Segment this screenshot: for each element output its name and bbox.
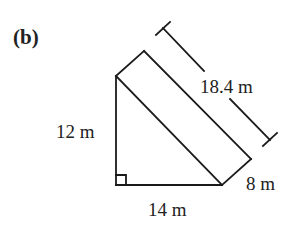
part-label: (b) <box>13 25 39 49</box>
width-label: 8 m <box>246 173 275 194</box>
prism-diagram: (b) 18.4 m 12 m 14 m 8 m <box>0 0 299 225</box>
length-label: 18.4 m <box>200 76 253 97</box>
length-dimension-line-lower <box>230 99 270 140</box>
right-angle-marker <box>116 175 126 185</box>
length-dimension-line-upper <box>163 28 204 71</box>
base-label: 14 m <box>148 199 187 220</box>
height-label: 12 m <box>56 121 95 142</box>
diagram-canvas: (b) 18.4 m 12 m 14 m 8 m <box>0 0 299 225</box>
rect-top-short-edge <box>116 51 144 76</box>
